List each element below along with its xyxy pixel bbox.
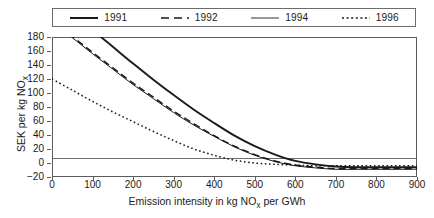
x-axis-title: Emission intensity in kg NOx per GWh (0, 196, 434, 210)
x-tick-label: 700 (328, 180, 345, 190)
y-axis-title: SEK per kg NOx (16, 44, 30, 184)
y-tick-label: 20 (33, 144, 44, 154)
x-tick-label: 0 (49, 180, 55, 190)
y-tick-mark (47, 121, 51, 122)
x-tick-mark (255, 177, 256, 181)
figure-root: 1991 1992 1994 1996 18016014012010080604… (0, 0, 434, 218)
y-tick-mark (47, 177, 51, 178)
y-tick-label: 80 (33, 102, 44, 112)
chart-curves (52, 37, 417, 177)
x-tick-mark (133, 177, 134, 181)
y-tick-mark (47, 107, 51, 108)
x-tick-label: 400 (206, 180, 223, 190)
x-tick-label: 600 (287, 180, 304, 190)
y-tick-mark (47, 149, 51, 150)
legend-label-1994: 1994 (285, 13, 308, 23)
y-tick-mark (47, 163, 51, 164)
x-tick-mark (376, 177, 377, 181)
legend-line-sample-1996 (341, 13, 371, 23)
y-tick-mark (47, 79, 51, 80)
x-tick-label: 200 (125, 180, 142, 190)
x-tick-label: 900 (409, 180, 426, 190)
legend-entry-1991: 1991 (53, 13, 144, 23)
chart-legend: 1991 1992 1994 1996 (52, 8, 416, 27)
x-tick-label: 800 (368, 180, 385, 190)
y-tick-mark (47, 65, 51, 66)
x-tick-mark (52, 177, 53, 181)
x-axis-tick-labels: 0100200300400500600700800900 (0, 180, 434, 194)
series-line-1992 (52, 37, 417, 169)
x-tick-label: 100 (84, 180, 101, 190)
x-axis-title-post: per GWh (260, 195, 305, 207)
legend-line-sample-1991 (69, 13, 99, 23)
x-tick-mark (295, 177, 296, 181)
legend-entry-1996: 1996 (325, 13, 416, 23)
y-tick-label: 60 (33, 116, 44, 126)
x-tick-mark (417, 177, 418, 181)
x-axis-title-pre: Emission intensity in kg NO (129, 195, 257, 207)
x-tick-mark (214, 177, 215, 181)
y-tick-label: 0 (38, 158, 44, 168)
legend-line-sample-1994 (250, 13, 280, 23)
legend-entry-1994: 1994 (234, 13, 325, 23)
y-axis-title-pre: SEK per kg NO (15, 80, 27, 152)
legend-label-1992: 1992 (195, 13, 218, 23)
y-axis-title-subscript: x (21, 76, 30, 80)
legend-entry-1992: 1992 (144, 13, 235, 23)
series-line-1996 (52, 79, 417, 166)
y-tick-mark (47, 135, 51, 136)
y-tick-mark (47, 37, 51, 38)
y-tick-label: 40 (33, 130, 44, 140)
series-line-1991 (52, 37, 417, 167)
x-tick-label: 500 (246, 180, 263, 190)
x-tick-mark (174, 177, 175, 181)
x-tick-mark (336, 177, 337, 181)
series-line-1994 (52, 37, 417, 169)
y-tick-mark (47, 51, 51, 52)
legend-line-sample-1992 (160, 13, 190, 23)
legend-label-1996: 1996 (376, 13, 399, 23)
y-tick-mark (47, 93, 51, 94)
y-tick-label: 180 (27, 32, 44, 42)
x-tick-label: 300 (165, 180, 182, 190)
legend-label-1991: 1991 (104, 13, 127, 23)
x-tick-mark (93, 177, 94, 181)
